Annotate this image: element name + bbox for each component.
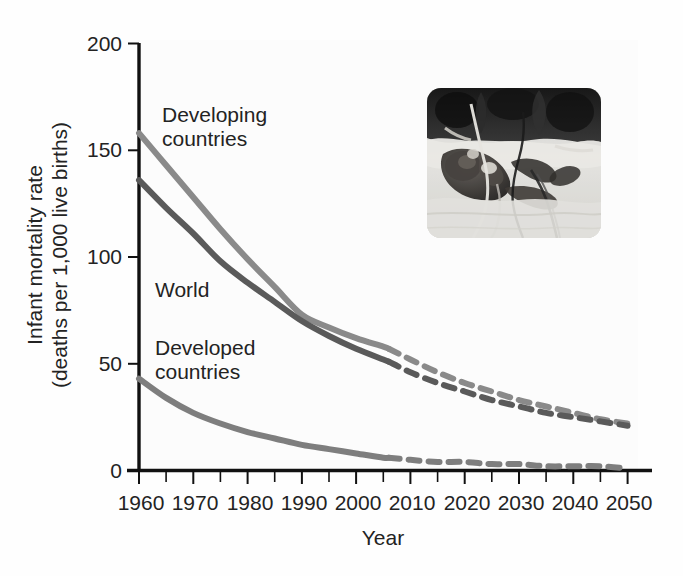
y-tick-label-0: 0 <box>110 459 122 482</box>
x-tick-label-2040: 2040 <box>552 491 599 514</box>
infant-incubator-photo <box>427 88 601 238</box>
x-axis-minor-ticks <box>166 471 600 483</box>
y-tick-label-150: 150 <box>87 138 122 161</box>
x-tick-label-2010: 2010 <box>389 491 436 514</box>
x-tick-label-1980: 1980 <box>227 491 274 514</box>
infant-mortality-line-chart: 0 50 100 150 200 <box>0 0 683 576</box>
x-tick-label-2000: 2000 <box>335 491 382 514</box>
y-tick-label-200: 200 <box>87 32 122 55</box>
x-tick-label-1960: 1960 <box>118 491 165 514</box>
chart-figure: 0 50 100 150 200 <box>0 0 683 576</box>
series-label-developing-line2: countries <box>162 127 247 150</box>
x-tick-label-1990: 1990 <box>281 491 328 514</box>
series-label-developed-line1: Developed <box>155 336 255 359</box>
x-axis-title: Year <box>362 526 404 549</box>
premature-infant-photo-inset <box>427 88 601 238</box>
y-axis-title-line2: (deaths per 1,000 live births) <box>48 122 71 388</box>
series-label-developing-line1: Developing <box>162 103 267 126</box>
x-tick-label-2050: 2050 <box>606 491 653 514</box>
x-tick-label-2030: 2030 <box>498 491 545 514</box>
y-tick-label-100: 100 <box>87 245 122 268</box>
series-label-developed-line2: countries <box>155 360 240 383</box>
y-tick-label-50: 50 <box>99 352 122 375</box>
x-tick-label-2020: 2020 <box>444 491 491 514</box>
series-label-world: World <box>155 278 209 301</box>
x-tick-label-1970: 1970 <box>172 491 219 514</box>
y-axis-title-line1: Infant mortality rate <box>23 165 46 345</box>
